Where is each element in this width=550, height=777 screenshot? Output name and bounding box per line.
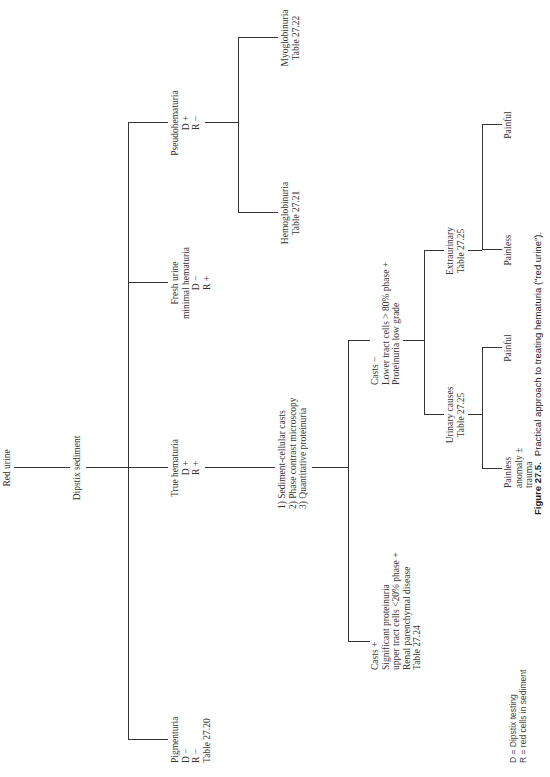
node-label: Pseudohematuria: [170, 90, 181, 155]
connector: [424, 250, 444, 251]
node-label: Casts +: [370, 552, 381, 670]
node-label: 1) Sediment-cellular casts: [277, 397, 288, 509]
connector: [238, 37, 278, 38]
node-label: Painless: [503, 448, 514, 488]
node-label: Red urine: [2, 449, 13, 486]
connector: [312, 467, 348, 468]
node-label: minimal hematuria: [181, 247, 192, 319]
node-label: Table 27.20: [202, 717, 213, 763]
connector: [403, 340, 424, 341]
node-fresh-urine: Fresh urine minimal hematuria D − R +: [170, 247, 212, 319]
legend-red-cells: R = red cells in sediment: [518, 670, 528, 763]
caption-label: Figure 27.5.: [532, 462, 543, 515]
connector: [482, 347, 502, 348]
connector: [128, 122, 168, 123]
node-label: Casts −: [370, 262, 381, 385]
node-label: R +: [202, 247, 213, 319]
node-casts-positive: Casts + Significant proteinuria upper tr…: [370, 552, 423, 670]
node-label: Table 27.25: [456, 387, 467, 444]
node-label: Myoglobinuria: [280, 10, 291, 67]
node-label: D +: [181, 90, 192, 155]
node-red-urine: Red urine: [2, 449, 13, 486]
connector: [128, 467, 168, 468]
node-label: Dipstix sediment: [72, 436, 83, 501]
node-urinary-painless: Painless anomaly ± trauma: [503, 448, 535, 488]
node-label: Pigmenturia: [170, 717, 181, 763]
legend-dipstix: D = Dipstix testing: [508, 670, 518, 763]
node-label: Hemoglobinuria: [280, 182, 291, 244]
connector: [128, 122, 129, 740]
node-workup: 1) Sediment-cellular casts 2) Phase cont…: [277, 397, 309, 509]
node-extra-painful: Painful: [503, 111, 514, 138]
node-label: Renal parenchymal disease: [402, 552, 413, 670]
connector: [482, 124, 502, 125]
node-label: D +: [181, 439, 192, 497]
node-urinary-painful: Painful: [503, 334, 514, 361]
node-label: upper tract cells <20% phase +: [391, 552, 402, 670]
connector: [482, 348, 483, 469]
node-label: Table 27.22: [291, 10, 302, 67]
node-casts-negative: Casts − Lower tract cells > 80% phase + …: [370, 262, 402, 385]
rotated-page: Red urine Dipstix sediment Pigmenturia D…: [0, 0, 550, 777]
node-label: Table 27.24: [412, 552, 423, 670]
node-label: 3) Quantitative proteinuria: [298, 397, 309, 509]
connector: [205, 467, 275, 468]
node-label: Proteinuria low grade: [391, 262, 402, 385]
node-label: Table 27.21: [291, 182, 302, 244]
connector: [14, 467, 70, 468]
node-dipstix-sediment: Dipstix sediment: [72, 436, 83, 501]
node-label: Urinary causes: [445, 387, 456, 444]
node-myoglobinuria: Myoglobinuria Table 27.22: [280, 10, 301, 67]
node-label: Painless: [503, 234, 514, 265]
node-extraurinary: Extraurinary Table 27.25: [445, 227, 466, 275]
node-label: D −: [181, 717, 192, 763]
caption-text: Practical approach to treating hematuria…: [532, 232, 543, 456]
connector: [348, 340, 370, 341]
node-true-hematuria: True hematuria D + R +: [170, 439, 202, 497]
node-pseudohematuria: Pseudohematuria D + R −: [170, 90, 202, 155]
node-hemoglobinuria: Hemoglobinuria Table 27.21: [280, 182, 301, 244]
node-label: Extraurinary: [445, 227, 456, 275]
node-label: 2) Phase contrast microscopy: [288, 397, 299, 509]
connector: [348, 341, 349, 642]
connector: [482, 125, 483, 250]
connector: [424, 414, 444, 415]
node-label: True hematuria: [170, 439, 181, 497]
connector: [482, 468, 502, 469]
node-label: Table 27.25: [456, 227, 467, 275]
connector: [238, 212, 278, 213]
connector: [238, 38, 239, 213]
node-urinary-causes: Urinary causes Table 27.25: [445, 387, 466, 444]
connector: [424, 251, 425, 415]
node-label: D −: [191, 247, 202, 319]
node-label: Significant proteinuria: [381, 552, 392, 670]
node-label: R −: [191, 717, 202, 763]
connector: [205, 122, 238, 123]
connector: [348, 641, 370, 642]
node-label: Painful: [503, 111, 514, 138]
connector: [482, 249, 502, 250]
connector: [468, 250, 482, 251]
node-label: anomaly ±: [514, 448, 525, 488]
figure-caption: Figure 27.5.Practical approach to treati…: [532, 232, 543, 515]
connector: [128, 739, 168, 740]
connector: [86, 467, 128, 468]
node-label: Lower tract cells > 80% phase +: [381, 262, 392, 385]
connector: [128, 282, 168, 283]
legend: D = Dipstix testing R = red cells in sed…: [508, 670, 528, 763]
node-label: Fresh urine: [170, 247, 181, 319]
node-pigmenturia: Pigmenturia D − R − Table 27.20: [170, 717, 212, 763]
node-label: R +: [191, 439, 202, 497]
connector: [468, 414, 482, 415]
node-extra-painless: Painless: [503, 234, 514, 265]
node-label: Painful: [503, 334, 514, 361]
node-label: R −: [191, 90, 202, 155]
